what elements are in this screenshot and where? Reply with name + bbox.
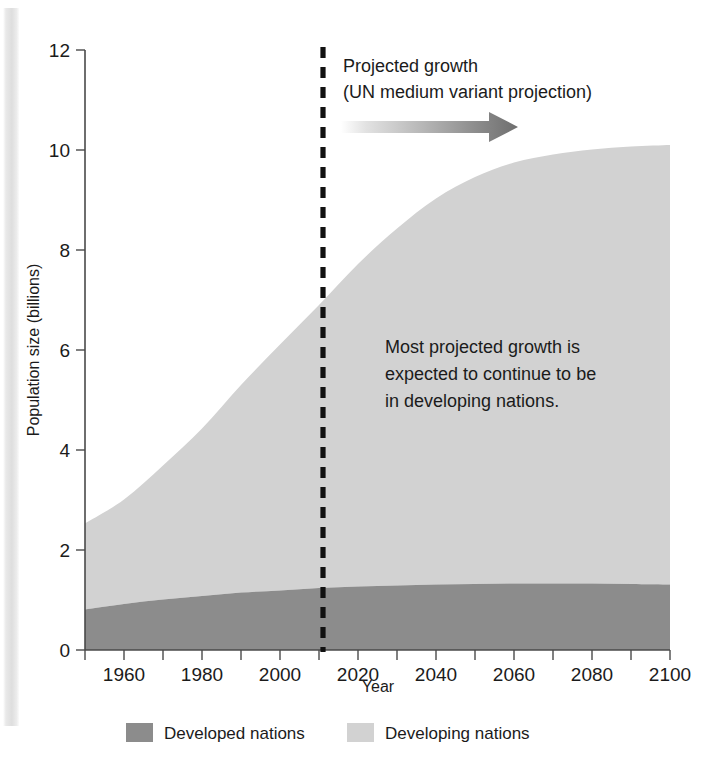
population-growth-chart: 024681012 196019802000202020402060208021… (0, 0, 713, 769)
x-tick-label-2060: 2060 (493, 664, 535, 685)
y-tick-label-4: 4 (59, 440, 70, 461)
developing-note-line-3: in developing nations. (385, 391, 559, 411)
x-tick-label-2000: 2000 (259, 664, 301, 685)
y-axis-tick-labels: 024681012 (49, 40, 71, 661)
plot-areas (85, 145, 670, 650)
legend-item-developed[interactable]: Developed nations (126, 723, 305, 743)
y-axis-title: Population size (billions) (25, 264, 42, 437)
y-tick-label-0: 0 (59, 640, 70, 661)
projection-arrow-icon (341, 112, 518, 142)
legend-label: Developing nations (385, 724, 530, 743)
y-tick-label-12: 12 (49, 40, 70, 61)
y-tick-label-6: 6 (59, 340, 70, 361)
y-tick-label-2: 2 (59, 540, 70, 561)
figure-root: 024681012 196019802000202020402060208021… (0, 0, 713, 769)
projection-note-line-1: Projected growth (343, 56, 478, 76)
x-axis-ticks (85, 650, 670, 660)
x-tick-label-1960: 1960 (103, 664, 145, 685)
developing-note-line-1: Most projected growth is (385, 337, 580, 357)
x-axis-tick-labels: 19601980200020202040206020802100 (103, 664, 691, 685)
legend-label: Developed nations (164, 724, 305, 743)
legend-swatch (126, 723, 153, 742)
y-axis-ticks (76, 50, 85, 650)
legend-swatch (347, 723, 374, 742)
chart-legend: Developed nationsDeveloping nations (126, 723, 530, 743)
projection-note-line-2: (UN medium variant projection) (343, 82, 592, 102)
developing-note-line-2: expected to continue to be (385, 364, 596, 384)
x-tick-label-2080: 2080 (571, 664, 613, 685)
x-axis-title: Year (362, 678, 395, 695)
x-tick-label-1980: 1980 (181, 664, 223, 685)
y-tick-label-10: 10 (49, 140, 70, 161)
legend-item-developing[interactable]: Developing nations (347, 723, 530, 743)
projected-growth-note: Projected growth (UN medium variant proj… (343, 56, 592, 102)
y-tick-label-8: 8 (59, 240, 70, 261)
x-tick-label-2100: 2100 (649, 664, 691, 685)
x-tick-label-2040: 2040 (415, 664, 457, 685)
